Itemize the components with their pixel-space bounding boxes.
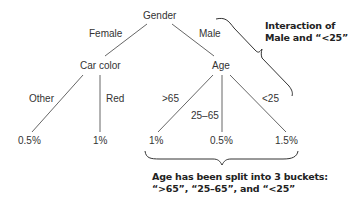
- leaf-25-65-value: 0.5%: [210, 135, 233, 147]
- node-gender: Gender: [143, 10, 176, 22]
- leaf-red-value: 1%: [93, 135, 107, 147]
- edge-label-male: Male: [199, 28, 221, 40]
- edge-label-gt65: >65: [162, 93, 179, 105]
- node-car-color: Car color: [80, 60, 121, 72]
- edge-label-lt25: <25: [262, 93, 279, 105]
- interaction-annotation-line1: Interaction of: [265, 20, 348, 32]
- age-split-annotation: Age has been split into 3 buckets: “>65”…: [152, 171, 328, 195]
- edge-label-25-65: 25–65: [191, 110, 219, 122]
- age-split-annotation-line1: Age has been split into 3 buckets:: [152, 171, 328, 183]
- decision-tree-diagram: Gender Female Male Car color Age Other R…: [0, 0, 358, 208]
- leaf-gt65-value: 1%: [149, 135, 163, 147]
- edge-label-red: Red: [106, 93, 124, 105]
- leaf-other-value: 0.5%: [18, 135, 41, 147]
- node-age: Age: [212, 60, 230, 72]
- interaction-annotation: Interaction of Male and “<25”: [265, 20, 348, 44]
- edge-label-other: Other: [29, 93, 54, 105]
- age-split-brace: [145, 151, 298, 165]
- leaf-lt25-value: 1.5%: [275, 135, 298, 147]
- interaction-annotation-line2: Male and “<25”: [265, 32, 348, 44]
- age-split-annotation-line2: “>65”, “25–65”, and “<25”: [152, 183, 328, 195]
- edge-label-female: Female: [89, 28, 122, 40]
